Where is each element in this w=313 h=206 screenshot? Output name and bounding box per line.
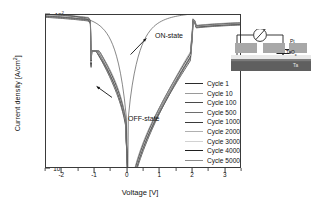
off-state-annotation: OFF-state <box>128 115 160 122</box>
legend-swatch-line <box>185 112 203 113</box>
legend-item[interactable]: Cycle 10 <box>185 89 269 99</box>
legend-swatch-line <box>185 141 203 142</box>
legend-swatch-line <box>185 102 203 103</box>
legend-swatch-line <box>185 160 203 161</box>
legend-item[interactable]: Cycle 1 <box>185 79 269 89</box>
legend: Cycle 1Cycle 10Cycle 100Cycle 500Cycle 1… <box>185 79 269 165</box>
legend-swatch-line <box>185 131 203 132</box>
legend-swatch-line <box>185 83 203 84</box>
inset-label-taox-text: TaO <box>286 50 295 55</box>
legend-label: Cycle 1 <box>207 79 229 89</box>
x-tick-minor <box>208 168 209 171</box>
y-axis-title-superscript: 2 <box>12 57 18 60</box>
inset-label-taox: TaOx <box>286 50 297 57</box>
figure-root: Current density [A/cm2] Voltage [V] 1021… <box>0 0 313 206</box>
y-axis-title-tail: ] <box>13 55 22 57</box>
pt-top-electrode-center <box>263 43 285 53</box>
legend-label: Cycle 2000 <box>207 127 240 137</box>
x-tick-label: 2 <box>190 171 194 178</box>
x-tick-minor <box>143 168 144 171</box>
inset-label-ta: Ta <box>293 63 298 68</box>
legend-label: Cycle 1000 <box>207 117 240 127</box>
legend-swatch-line <box>185 93 203 94</box>
inset-label-taox-sub: x <box>295 53 297 57</box>
x-tick-label: 3 <box>223 171 227 178</box>
x-tick-minor <box>175 168 176 171</box>
x-tick-label: 1 <box>158 171 162 178</box>
y-axis-title-text: Current density [A/cm <box>13 60 22 131</box>
legend-item[interactable]: Cycle 100 <box>185 98 269 108</box>
pt-top-electrode-left <box>235 43 257 53</box>
taox-layer <box>231 55 311 59</box>
inset-device-schematic: Pt TaOx Ta <box>231 29 311 79</box>
x-tick-label: -1 <box>91 171 97 178</box>
legend-item[interactable]: Cycle 5000 <box>185 156 269 166</box>
x-tick-minor <box>110 168 111 171</box>
legend-label: Cycle 3000 <box>207 137 240 147</box>
legend-label: Cycle 100 <box>207 98 236 108</box>
legend-label: Cycle 500 <box>207 108 236 118</box>
x-tick-label: 0 <box>125 171 129 178</box>
legend-item[interactable]: Cycle 500 <box>185 108 269 118</box>
x-tick-minor <box>241 168 242 171</box>
legend-label: Cycle 4000 <box>207 146 240 156</box>
schematic-drawing <box>231 29 311 79</box>
x-tick-minor <box>45 168 46 171</box>
x-axis-title: Voltage [V] <box>40 188 240 197</box>
x-tick-minor <box>77 168 78 171</box>
iv-curve-on-state <box>46 15 127 168</box>
y-axis-title: Current density [A/cm2] <box>12 28 22 158</box>
on-state-annotation: ON-state <box>155 32 183 39</box>
x-tick-label: -2 <box>58 171 64 178</box>
legend-item[interactable]: Cycle 1000 <box>185 117 269 127</box>
legend-item[interactable]: Cycle 3000 <box>185 137 269 147</box>
legend-label: Cycle 5000 <box>207 156 240 166</box>
legend-swatch-line <box>185 122 203 123</box>
inset-label-pt: Pt <box>290 39 295 44</box>
legend-swatch-line <box>185 150 203 151</box>
legend-label: Cycle 10 <box>207 89 233 99</box>
legend-item[interactable]: Cycle 2000 <box>185 127 269 137</box>
legend-item[interactable]: Cycle 4000 <box>185 146 269 156</box>
